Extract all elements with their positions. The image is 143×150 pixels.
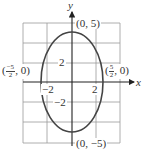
axes [23, 12, 134, 146]
x-axis-label: x [136, 77, 141, 88]
x-tick-2: 2 [91, 84, 99, 95]
point-label-bottom: (0, −5) [75, 138, 107, 149]
fraction-neg-5-over-2: −52 [6, 64, 15, 79]
y-tick-2: 2 [58, 57, 66, 68]
y-tick-neg2: −2 [53, 97, 67, 108]
x-tick-neg2: −2 [41, 84, 55, 95]
point-label-top: (0, 5) [75, 18, 101, 29]
point-label-right: (52, 0) [105, 64, 129, 79]
point-label-left: (−52, 0) [2, 64, 30, 79]
y-axis-label: y [68, 0, 73, 11]
ellipse-figure: y x 2 −2 −2 2 (0, 5) (0, −5) (−52, 0) (5… [0, 0, 143, 150]
